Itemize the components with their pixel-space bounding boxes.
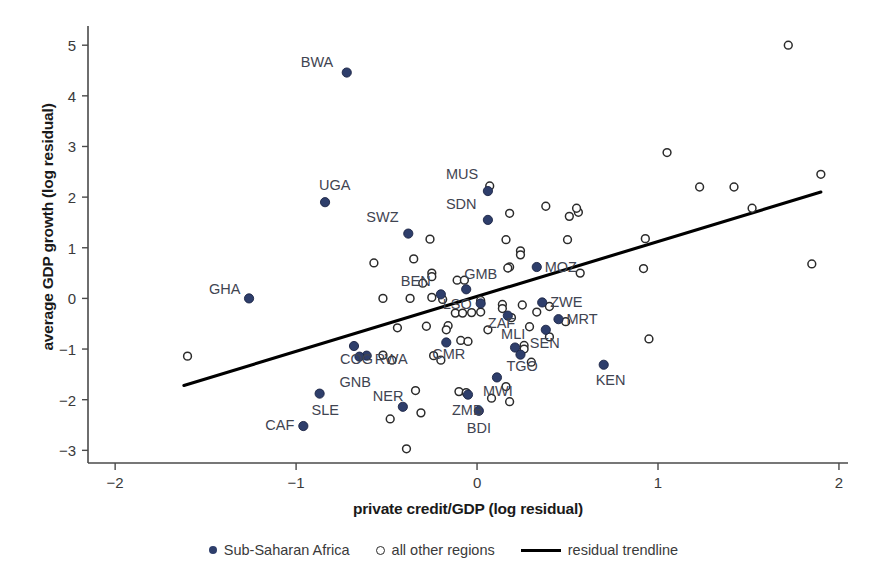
data-point-gha — [244, 294, 253, 303]
data-point-other — [426, 235, 434, 243]
data-point-other — [477, 308, 485, 316]
scatter-plot-canvas: BWAUGAGHASWZMUSSDNMOZBENGMBLSOZWEZAFMRTM… — [0, 0, 887, 578]
data-point-zmb — [463, 390, 472, 399]
data-point-other — [696, 183, 704, 191]
point-label-mwi: MWI — [483, 383, 513, 399]
data-point-other — [641, 235, 649, 243]
data-point-sen — [541, 325, 550, 334]
data-point-other — [422, 322, 430, 330]
point-label-gmb: GMB — [464, 266, 497, 282]
point-label-sen: SEN — [530, 335, 560, 351]
data-point-sdn — [483, 215, 492, 224]
data-point-other — [645, 335, 653, 343]
data-point-other — [498, 305, 506, 313]
country-code-labels: BWAUGAGHASWZMUSSDNMOZBENGMBLSOZWEZAFMRTM… — [209, 54, 625, 436]
point-label-gnb: GNB — [339, 374, 370, 390]
point-label-lso: LSO — [443, 296, 472, 312]
point-label-sle: SLE — [312, 402, 340, 418]
point-label-mli: MLI — [501, 326, 525, 342]
point-label-uga: UGA — [319, 177, 351, 193]
point-label-bdi: BDI — [467, 420, 491, 436]
point-label-ben: BEN — [401, 273, 431, 289]
data-point-other — [533, 308, 541, 316]
trendline — [184, 192, 821, 385]
data-point-other — [564, 236, 572, 244]
data-point-other — [576, 269, 584, 277]
data-point-other — [412, 387, 420, 395]
data-point-other — [394, 324, 402, 332]
data-point-caf — [299, 421, 308, 430]
legend-label-residual-trendline: residual trendline — [568, 542, 678, 558]
open-circle-icon — [376, 546, 385, 555]
data-point-other — [410, 255, 418, 263]
data-point-other — [406, 295, 414, 303]
point-label-moz: MOZ — [545, 259, 577, 275]
data-point-other — [428, 293, 436, 301]
data-point-other — [573, 204, 581, 212]
data-point-other — [808, 260, 816, 268]
data-point-swz — [404, 229, 413, 238]
data-point-mwi — [492, 373, 501, 382]
data-point-other — [817, 170, 825, 178]
data-point-moz — [532, 262, 541, 271]
data-point-other — [730, 183, 738, 191]
point-label-ken: KEN — [596, 372, 626, 388]
point-label-bwa: BWA — [301, 54, 334, 70]
data-point-mrt — [554, 315, 563, 324]
point-label-swz: SWZ — [366, 209, 398, 225]
data-point-bwa — [342, 68, 351, 77]
chart-legend: Sub-Saharan Africa all other regions res… — [0, 542, 887, 558]
legend-label-sub-saharan-africa: Sub-Saharan Africa — [224, 542, 350, 558]
data-point-other — [386, 415, 394, 423]
point-label-tgo: TGO — [506, 358, 537, 374]
data-point-other — [565, 212, 573, 220]
data-point-other — [663, 149, 671, 157]
legend-item-all-other-regions[interactable]: all other regions — [376, 542, 495, 558]
data-point-other — [502, 236, 510, 244]
sub-saharan-africa-points — [244, 68, 608, 431]
data-point-other — [526, 323, 534, 331]
legend-label-all-other-regions: all other regions — [392, 542, 495, 558]
data-point-other — [379, 295, 387, 303]
data-point-other — [442, 326, 450, 334]
data-point-lso — [476, 299, 485, 308]
data-point-other — [504, 264, 512, 272]
point-label-cmr: CMR — [432, 346, 465, 362]
data-point-cog — [349, 341, 358, 350]
data-point-other — [184, 352, 192, 360]
data-point-other — [417, 409, 425, 417]
point-label-mrt: MRT — [566, 311, 597, 327]
point-label-ner: NER — [373, 388, 404, 404]
data-point-other — [506, 209, 514, 217]
data-point-other — [518, 301, 526, 309]
point-label-sdn: SDN — [446, 196, 477, 212]
point-label-rwa: RWA — [375, 351, 408, 367]
data-point-other — [640, 265, 648, 273]
data-point-other — [542, 202, 550, 210]
data-point-zwe — [538, 298, 547, 307]
data-point-ken — [599, 360, 608, 369]
data-point-other — [517, 251, 525, 259]
line-icon — [521, 549, 561, 552]
point-label-cog: COG — [340, 351, 373, 367]
point-label-zwe: ZWE — [550, 294, 583, 310]
point-label-gha: GHA — [209, 281, 241, 297]
point-label-mus: MUS — [446, 166, 478, 182]
point-label-zmb: ZMB — [452, 402, 483, 418]
data-point-gmb — [462, 285, 471, 294]
filled-circle-icon — [209, 546, 217, 554]
data-point-other — [748, 204, 756, 212]
data-point-other — [464, 338, 472, 346]
data-point-mus — [483, 186, 492, 195]
point-label-caf: CAF — [265, 417, 294, 433]
legend-item-sub-saharan-africa[interactable]: Sub-Saharan Africa — [209, 542, 350, 558]
data-point-other — [784, 41, 792, 49]
data-point-sle — [315, 389, 324, 398]
chart-figure: average GDP growth (log residual) privat… — [0, 0, 887, 578]
legend-item-residual-trendline[interactable]: residual trendline — [521, 542, 678, 558]
data-point-other — [403, 445, 411, 453]
data-point-uga — [320, 198, 329, 207]
data-point-other — [370, 259, 378, 267]
